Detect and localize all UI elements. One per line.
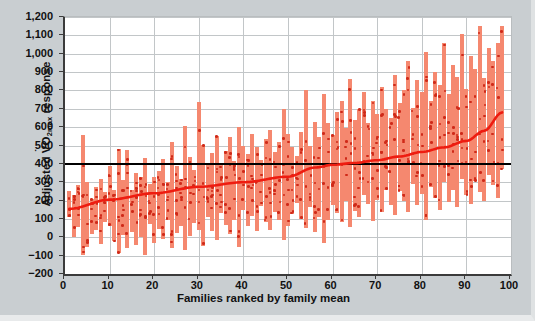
y-tick-label-900: 900 (0, 65, 53, 77)
plot-clip (65, 17, 511, 274)
plot-area (63, 16, 512, 276)
y-tick-label--100: −100 (0, 249, 53, 261)
x-tick-mark-10 (108, 275, 109, 279)
x-tick-label-90: 90 (444, 279, 484, 291)
x-tick-mark-60 (331, 275, 332, 279)
y-tick-mark-1200 (59, 16, 63, 17)
x-tick-label-70: 70 (355, 279, 395, 291)
y-tick-mark-100 (59, 218, 63, 219)
y-tick-mark-400 (59, 163, 63, 164)
x-tick-mark-0 (63, 275, 64, 279)
x-tick-mark-70 (375, 275, 376, 279)
y-tick-label-500: 500 (0, 139, 53, 151)
y-tick-label-600: 600 (0, 120, 53, 132)
y-tick-label-1100: 1,100 (0, 28, 53, 40)
x-tick-mark-90 (464, 275, 465, 279)
x-tick-mark-40 (241, 275, 242, 279)
y-tick-label-200: 200 (0, 194, 53, 206)
x-tick-mark-80 (420, 275, 421, 279)
y-tick-label-300: 300 (0, 175, 53, 187)
trend-line (65, 17, 511, 274)
y-tick-mark-500 (59, 145, 63, 146)
y-tick-label-700: 700 (0, 102, 53, 114)
x-tick-label-0: 0 (43, 279, 83, 291)
figure-panel: Adjusted VO2max response Families ranked… (0, 0, 535, 321)
y-tick-mark-900 (59, 71, 63, 72)
x-tick-label-40: 40 (221, 279, 261, 291)
y-tick-mark-800 (59, 89, 63, 90)
y-tick-mark-300 (59, 181, 63, 182)
x-tick-mark-100 (509, 275, 510, 279)
y-tick-label-1200: 1,200 (0, 10, 53, 22)
y-tick-label-1000: 1,000 (0, 47, 53, 59)
y-tick-mark--100 (59, 255, 63, 256)
x-tick-label-60: 60 (311, 279, 351, 291)
y-tick-mark-600 (59, 126, 63, 127)
x-tick-label-20: 20 (132, 279, 172, 291)
y-tick-label--200: −200 (0, 267, 53, 279)
y-tick-mark-1100 (59, 34, 63, 35)
x-tick-label-10: 10 (88, 279, 128, 291)
x-tick-mark-30 (197, 275, 198, 279)
y-tick-label-100: 100 (0, 212, 53, 224)
x-tick-label-30: 30 (177, 279, 217, 291)
y-tick-label-0: 0 (0, 230, 53, 242)
x-tick-label-100: 100 (489, 279, 529, 291)
y-tick-mark-200 (59, 200, 63, 201)
x-tick-mark-50 (286, 275, 287, 279)
y-tick-mark-700 (59, 108, 63, 109)
y-tick-label-400: 400 (0, 157, 53, 169)
x-tick-label-50: 50 (266, 279, 306, 291)
y-tick-mark-1000 (59, 53, 63, 54)
y-tick-mark-0 (59, 236, 63, 237)
x-tick-label-80: 80 (400, 279, 440, 291)
x-tick-mark-20 (152, 275, 153, 279)
y-tick-label-800: 800 (0, 83, 53, 95)
y-tick-mark--200 (59, 273, 63, 274)
x-axis-title: Families ranked by family mean (0, 292, 527, 304)
